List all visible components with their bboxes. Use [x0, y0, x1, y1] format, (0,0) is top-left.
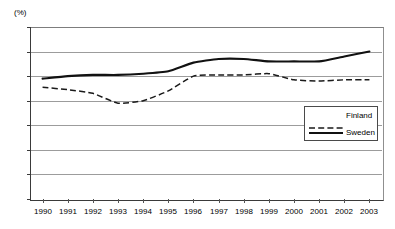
x-axis-tick-label: 1993 [109, 207, 127, 216]
x-axis-tick-label: 1996 [184, 207, 202, 216]
legend: Finland Sweden [304, 106, 378, 141]
x-axis-tick-label: 1990 [34, 207, 52, 216]
x-axis-tick-label: 1991 [59, 207, 77, 216]
legend-swatch-dashed-icon [309, 115, 343, 117]
legend-item-finland: Finland [305, 108, 379, 124]
x-axis-tick-label: 2003 [360, 207, 378, 216]
x-axis-tick-label: 2002 [335, 207, 353, 216]
legend-label-finland: Finland [346, 110, 372, 121]
legend-item-sweden: Sweden [305, 125, 379, 141]
x-axis-tick-label: 1994 [134, 207, 152, 216]
series-line-sweden [43, 52, 370, 79]
legend-label-sweden: Sweden [346, 127, 375, 138]
x-axis-tick-label: 1995 [159, 207, 177, 216]
x-axis-tick-label: 1999 [260, 207, 278, 216]
x-axis-tick-label: 2001 [310, 207, 328, 216]
x-axis-tick-label: 2000 [285, 207, 303, 216]
series-line-finland [43, 74, 370, 104]
line-chart: (%) 010203040506070 19901991199219931994… [0, 0, 395, 229]
x-axis-tick-label: 1992 [84, 207, 102, 216]
x-axis-tick-label: 1997 [210, 207, 228, 216]
y-axis-unit-label: (%) [14, 8, 26, 17]
x-axis-tick-label: 1998 [235, 207, 253, 216]
legend-swatch-solid-icon [309, 132, 343, 134]
